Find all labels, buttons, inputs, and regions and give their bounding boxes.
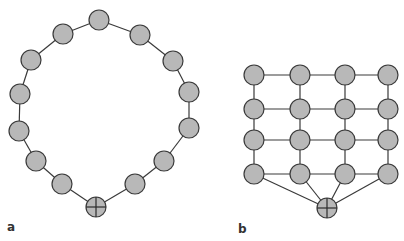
node-circle	[378, 130, 398, 150]
node-circle	[179, 82, 199, 102]
panel-label-b: b	[238, 222, 247, 236]
node-circle	[335, 99, 355, 119]
node-circle	[9, 121, 29, 141]
panel-label-a: a	[7, 220, 15, 234]
node-circle	[244, 99, 264, 119]
node-circle	[378, 164, 398, 184]
node-circle	[378, 99, 398, 119]
node-circle	[244, 164, 264, 184]
node-circle	[335, 164, 355, 184]
grid-topology-panel	[244, 65, 398, 218]
node-circle	[290, 99, 310, 119]
node-circle	[335, 65, 355, 85]
node-circle	[125, 174, 145, 194]
node-circle	[10, 84, 30, 104]
node-circle	[26, 151, 46, 171]
node-circle	[378, 65, 398, 85]
node-circle	[53, 24, 73, 44]
node-circle	[163, 51, 183, 71]
node-circle	[21, 50, 41, 70]
node-circle	[244, 130, 264, 150]
node-circle	[290, 130, 310, 150]
node-circle	[154, 151, 174, 171]
node-circle	[335, 130, 355, 150]
hub-edge	[254, 174, 327, 208]
node-circle	[130, 25, 150, 45]
node-circle	[52, 174, 72, 194]
ring-topology-panel	[9, 10, 199, 217]
network-topology-diagram	[0, 0, 404, 241]
node-circle	[244, 65, 264, 85]
node-circle	[290, 65, 310, 85]
node-circle	[179, 118, 199, 138]
diagram-canvas: a b	[0, 0, 404, 241]
node-circle	[89, 10, 109, 30]
node-circle	[290, 164, 310, 184]
